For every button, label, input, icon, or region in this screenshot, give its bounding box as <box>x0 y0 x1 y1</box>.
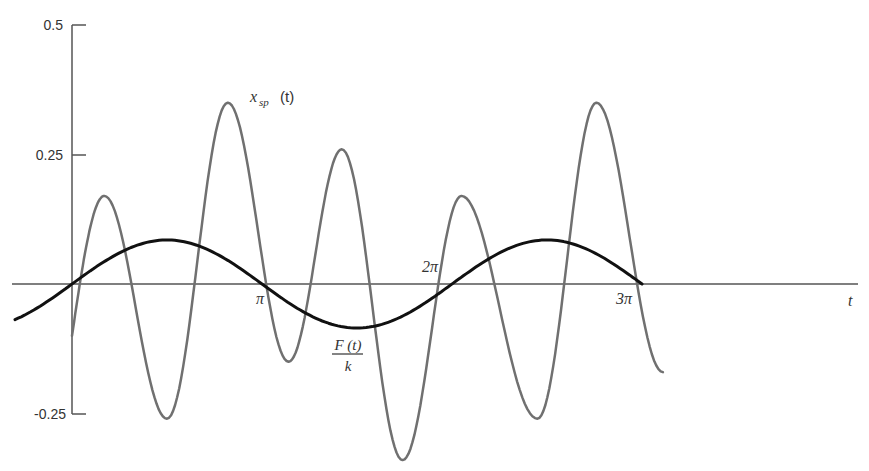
xsp-label-suffix: (t) <box>280 88 294 105</box>
x-tick-label-3pi: 3π <box>615 290 633 307</box>
y-tick-label-neg0.25: -0.25 <box>34 406 66 422</box>
xsp-label-sub: sp <box>259 96 269 108</box>
y-tick-label-0.5: 0.5 <box>44 17 64 33</box>
y-axis: 0.5 0.25 -0.25 <box>34 17 86 422</box>
force-label-numerator: F (t) <box>333 337 361 354</box>
x-axis-label: t <box>848 292 853 309</box>
y-tick-label-0.25: 0.25 <box>36 147 63 163</box>
xsp-curve <box>72 103 663 460</box>
xsp-label: x sp (t) <box>249 88 294 108</box>
chart-canvas: 0.5 0.25 -0.25 π 2π 3π t x sp (t) F (t) … <box>0 0 869 471</box>
force-label-denominator: k <box>345 358 352 374</box>
force-label: F (t) k <box>332 337 363 374</box>
x-tick-label-2pi: 2π <box>422 258 439 275</box>
xsp-label-main: x <box>249 88 257 105</box>
x-tick-label-pi: π <box>256 290 265 307</box>
